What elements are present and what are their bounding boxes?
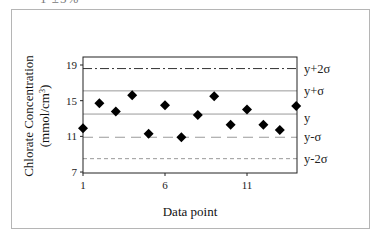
diamond-marker: [226, 120, 236, 130]
diamond-marker: [291, 101, 301, 111]
reference-line-label: y+σ: [304, 84, 324, 98]
diamond-marker: [78, 123, 88, 133]
diamond-marker: [242, 105, 252, 115]
diamond-marker: [176, 132, 186, 142]
diamond-marker: [275, 125, 285, 135]
x-tick-label: 11: [242, 179, 253, 191]
y-tick-label: 15: [66, 95, 78, 107]
y-tick-label: 7: [72, 166, 78, 178]
reference-line-label: y-2σ: [304, 152, 328, 166]
scatter-chart: 7111519 1611 y+2σy+σyy-σy-2σ Data point …: [0, 0, 377, 238]
reference-line-label: y-σ: [304, 130, 321, 144]
y-axis-title: Chlorate Concentration (mmol/cm3): [21, 55, 52, 177]
reference-line-label: y: [304, 111, 311, 125]
y-tick-label: 19: [66, 59, 78, 71]
diamond-marker: [209, 91, 219, 101]
diamond-marker: [111, 106, 121, 116]
x-tick-label: 1: [80, 179, 86, 191]
x-axis: 1611: [80, 173, 252, 191]
diamond-marker: [127, 90, 137, 100]
svg-text:(mmol/cm3): (mmol/cm3): [37, 85, 52, 148]
reference-line-labels: y+2σy+σyy-σy-2σ: [304, 62, 331, 166]
diamond-marker: [193, 110, 203, 120]
diamond-marker: [94, 98, 104, 108]
data-points: [78, 90, 301, 142]
y-axis: 7111519: [66, 59, 83, 178]
y-tick-label: 11: [66, 130, 77, 142]
svg-text:Chlorate Concentration: Chlorate Concentration: [21, 55, 36, 177]
diamond-marker: [258, 120, 268, 130]
x-tick-label: 6: [162, 179, 168, 191]
reference-line-label: y+2σ: [304, 62, 331, 76]
x-axis-title: Data point: [163, 204, 218, 219]
diamond-marker: [160, 100, 170, 110]
